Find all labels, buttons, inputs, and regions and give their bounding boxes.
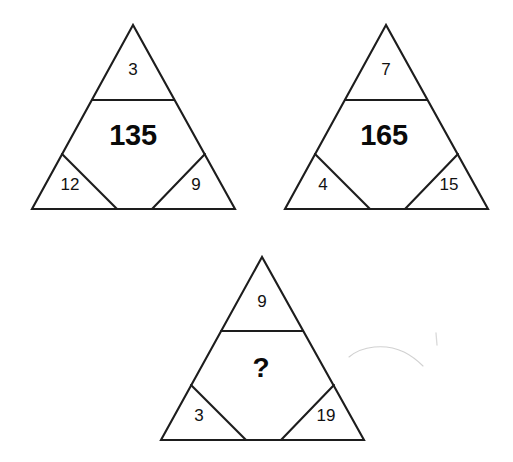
triangle-3-bottom-right-value: 19 [317,406,336,425]
triangle-3-top-value: 9 [257,292,266,311]
scan-smudge-icon [349,347,423,366]
scan-tick-icon [436,333,437,345]
puzzle-canvas: 3 135 12 9 7 165 4 15 9 ? 3 19 [0,0,513,462]
scan-artifacts [349,333,437,366]
triangle-2-top-value: 7 [381,60,390,79]
triangle-2-bottom-left-value: 4 [318,175,327,194]
triangle-1-bottom-right-value: 9 [191,175,200,194]
triangle-1: 3 135 12 9 [32,25,235,209]
triangle-1-top-value: 3 [128,60,137,79]
triangle-1-center-value: 135 [109,119,157,151]
triangle-1-bottom-left-value: 12 [61,175,80,194]
puzzle-diagram: 3 135 12 9 7 165 4 15 9 ? 3 19 [0,0,513,462]
triangle-3-center-value: ? [252,352,269,383]
triangle-3: 9 ? 3 19 [161,257,364,440]
triangle-2-center-value: 165 [360,119,408,151]
triangle-3-bottom-left-value: 3 [194,406,203,425]
triangle-2: 7 165 4 15 [285,25,488,209]
triangle-2-bottom-right-value: 15 [440,175,459,194]
